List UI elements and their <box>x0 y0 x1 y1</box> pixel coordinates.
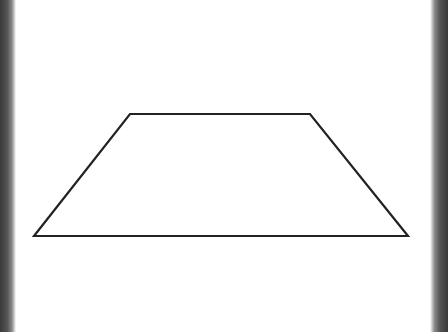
trapezoid-shape <box>34 114 408 236</box>
diagram-canvas <box>0 0 448 332</box>
